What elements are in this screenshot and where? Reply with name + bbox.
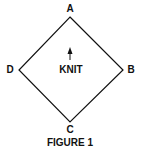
vertex-label-c: C [66, 125, 73, 135]
figure-caption: FIGURE 1 [47, 138, 93, 148]
center-label: KNIT [59, 65, 82, 75]
up-arrow-icon [68, 47, 73, 60]
vertex-label-d: D [6, 65, 13, 75]
vertex-label-b: B [127, 65, 134, 75]
vertex-label-a: A [66, 4, 73, 14]
